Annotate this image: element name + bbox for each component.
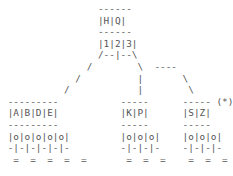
art-line-children-top-rules: --------- ----- ----- (*) xyxy=(2,96,226,108)
art-line-root-divider: ------ xyxy=(2,26,226,38)
art-line-root-top-rule: ------ xyxy=(2,3,226,15)
art-line-children-ground: = = = = = = = = = = = xyxy=(2,154,226,166)
art-line-root-second-row: |1|2|3| xyxy=(2,38,226,50)
art-line-children-slots: |o|o|o|o|o| |o|o|o| |o|o|o| xyxy=(2,131,226,143)
art-line-branch-fanout: /--|--\ xyxy=(2,49,226,61)
art-line-root-cells: |H|Q| xyxy=(2,15,226,27)
art-line-connector-3: / | \ xyxy=(2,84,226,96)
art-line-children-dividers: --------- ----- ----- xyxy=(2,119,226,131)
ascii-tree-diagram: ------ |H|Q| ------ |1|2|3| /--|--\ / \ … xyxy=(0,0,228,176)
art-line-children-pins: -|-|-|-|-|- -|-|-|- -|-|-|- xyxy=(2,142,226,154)
art-line-connector-2: / | \ xyxy=(2,73,226,85)
art-line-connector-1: / \ ---- xyxy=(2,61,226,73)
art-line-children-cells: |A|B|D|E| |K|P| |S|Z| xyxy=(2,107,226,119)
